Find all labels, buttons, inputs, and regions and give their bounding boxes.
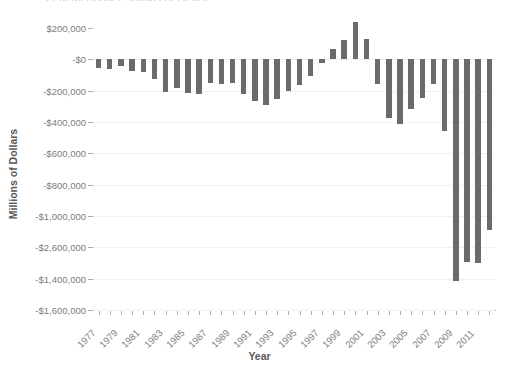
bar[interactable] [353, 22, 359, 59]
y-axis-tick-label: -$1,600,000 [0, 305, 86, 316]
bar[interactable] [241, 59, 247, 94]
x-axis-tick-label: 2005 [387, 327, 410, 350]
x-axis-tick [277, 311, 278, 315]
x-axis-tick [422, 311, 423, 315]
x-axis-tick [389, 311, 390, 315]
x-axis-tick [355, 311, 356, 315]
bar[interactable] [420, 59, 426, 98]
x-axis-tick-label: 1999 [320, 327, 343, 350]
x-axis-tick [177, 311, 178, 315]
bar[interactable] [408, 59, 414, 109]
bar[interactable] [185, 59, 191, 92]
x-axis-tick [288, 311, 289, 315]
x-axis-tick [154, 311, 155, 315]
x-axis-tick-label: 2011 [454, 328, 476, 350]
bar[interactable] [475, 59, 481, 263]
bar[interactable] [386, 59, 392, 118]
bar[interactable] [230, 59, 236, 83]
x-axis-tick [132, 311, 133, 315]
x-axis-tick [367, 311, 368, 315]
y-axis-tick [88, 310, 93, 311]
x-axis-tick [378, 311, 379, 315]
bar[interactable] [286, 59, 292, 91]
gridline [93, 310, 495, 311]
x-axis-tick [221, 311, 222, 315]
y-axis-tick [88, 91, 93, 92]
x-axis-tick [489, 311, 490, 315]
bar[interactable] [341, 40, 347, 60]
y-axis-tick [88, 153, 93, 154]
bar[interactable] [375, 59, 381, 84]
bar[interactable] [208, 59, 214, 83]
bar[interactable] [442, 59, 448, 131]
gridline [93, 153, 495, 154]
bar[interactable] [364, 39, 370, 59]
y-axis-tick [88, 279, 93, 280]
bar[interactable] [319, 59, 325, 62]
bar[interactable] [453, 59, 459, 280]
x-axis-tick [434, 311, 435, 315]
y-axis-tick [88, 122, 93, 123]
x-axis-tick-label: 1979 [97, 327, 120, 350]
x-axis-tick [300, 311, 301, 315]
bar[interactable] [107, 59, 113, 68]
bar[interactable] [274, 59, 280, 99]
x-axis-tick-label: 1983 [142, 327, 165, 350]
bar[interactable] [297, 59, 303, 85]
x-axis-tick-label: 1987 [186, 327, 209, 350]
bar[interactable] [152, 59, 158, 79]
x-axis-tick [411, 311, 412, 315]
x-axis-tick [244, 311, 245, 315]
x-axis-title: Year [0, 350, 519, 362]
x-axis-tick-label: 1989 [209, 327, 232, 350]
x-axis-tick [467, 311, 468, 315]
x-axis-tick [188, 311, 189, 315]
x-axis-tick [478, 311, 479, 315]
y-axis-tick [88, 185, 93, 186]
y-axis-tick-label: -$1,400,000 [0, 273, 86, 284]
y-axis-tick [88, 28, 93, 29]
x-axis-tick [445, 311, 446, 315]
x-axis-tick [233, 311, 234, 315]
bar[interactable] [174, 59, 180, 88]
x-axis-tick-label: 2003 [365, 327, 388, 350]
x-axis-tick [400, 311, 401, 315]
bar[interactable] [118, 59, 124, 65]
bar[interactable] [330, 49, 336, 60]
x-axis-tick-label: 1981 [119, 327, 142, 350]
x-axis-tick [333, 311, 334, 315]
bar[interactable] [163, 59, 169, 92]
y-axis-tick [88, 247, 93, 248]
x-axis-tick [110, 311, 111, 315]
x-axis-tick [344, 311, 345, 315]
bar[interactable] [397, 59, 403, 124]
bar[interactable] [129, 59, 135, 71]
y-axis-tick [88, 216, 93, 217]
x-axis-tick [311, 311, 312, 315]
bar[interactable] [141, 59, 147, 71]
x-axis-tick [210, 311, 211, 315]
bar[interactable] [219, 59, 225, 83]
bar[interactable] [252, 59, 258, 101]
bar[interactable] [263, 59, 269, 105]
y-axis-tick [88, 59, 93, 60]
x-axis-tick-label: 1995 [276, 327, 299, 350]
x-axis-tick [121, 311, 122, 315]
y-axis-tick-label: -$200,000 [0, 85, 86, 96]
bar-chart: Federal Budget Surplus or Deficit $200,0… [0, 0, 519, 373]
bar[interactable] [96, 59, 102, 67]
x-axis-tick [322, 311, 323, 315]
x-axis-tick [99, 311, 100, 315]
x-axis-tick [456, 311, 457, 315]
plot-area [93, 28, 495, 310]
bar[interactable] [431, 59, 437, 84]
bar[interactable] [464, 59, 470, 262]
x-axis-tick-label: 2001 [343, 327, 366, 350]
x-axis-tick [143, 311, 144, 315]
bar[interactable] [196, 59, 202, 94]
x-axis-tick-label: 1997 [298, 327, 321, 350]
gridline [93, 279, 495, 280]
x-axis-tick-label: 1993 [253, 327, 276, 350]
bar[interactable] [308, 59, 314, 76]
bar[interactable] [487, 59, 493, 229]
